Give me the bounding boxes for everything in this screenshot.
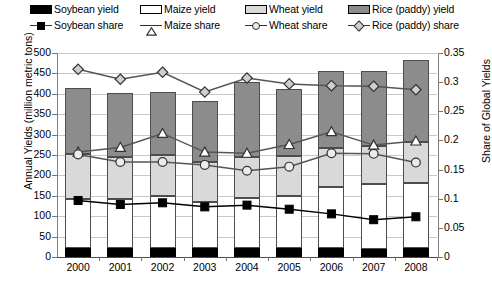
- chart-container: Soybean yield Maize yield Wheat yield Ri…: [0, 0, 492, 286]
- data-point-marker[interactable]: [326, 127, 336, 136]
- right-axis-tick-label: 0.05: [444, 222, 484, 232]
- legend-label: Soybean share: [54, 20, 123, 31]
- legend-item-maize-share[interactable]: Maize share: [140, 18, 220, 33]
- data-point-marker[interactable]: [411, 85, 421, 95]
- data-point-marker[interactable]: [412, 213, 420, 221]
- share-line-soybean-share[interactable]: [74, 196, 420, 223]
- data-point-marker[interactable]: [200, 161, 209, 170]
- legend-row-shares: Soybean share Maize share Wheat share: [0, 18, 492, 33]
- data-point-marker[interactable]: [158, 128, 168, 137]
- legend-label: Rice (paddy) yield: [372, 4, 454, 15]
- legend-item-soybean-yield[interactable]: Soybean yield: [30, 2, 119, 17]
- left-axis-tick-label: 150: [17, 190, 51, 200]
- share-lines-overlay: [57, 53, 437, 257]
- legend-row-yields: Soybean yield Maize yield Wheat yield Ri…: [0, 2, 492, 17]
- legend-label: Rice (paddy) share: [372, 20, 459, 31]
- data-point-marker[interactable]: [200, 87, 210, 97]
- left-axis-tick-label: 100: [17, 210, 51, 220]
- data-point-marker[interactable]: [327, 149, 336, 158]
- wheat-share-marker-icon: [245, 20, 267, 31]
- data-point-marker[interactable]: [201, 203, 209, 211]
- data-point-marker[interactable]: [157, 67, 167, 77]
- right-axis-tick: [438, 228, 443, 229]
- data-point-marker[interactable]: [368, 81, 378, 91]
- data-point-marker[interactable]: [411, 136, 421, 145]
- data-point-marker[interactable]: [159, 199, 167, 207]
- legend-item-rice-yield[interactable]: Rice (paddy) yield: [348, 2, 454, 17]
- rice-share-marker-icon: [348, 20, 370, 31]
- right-axis-tick-label: 0.1: [444, 193, 484, 203]
- data-point-marker[interactable]: [284, 79, 294, 89]
- right-axis-tick-label: 0.35: [444, 47, 484, 57]
- chart-legend: Soybean yield Maize yield Wheat yield Ri…: [0, 2, 492, 38]
- data-point-marker[interactable]: [411, 158, 420, 167]
- right-axis-tick-label: 0: [444, 251, 484, 261]
- data-point-marker[interactable]: [327, 210, 335, 218]
- data-point-marker[interactable]: [242, 73, 252, 83]
- share-line-rice-paddy-share[interactable]: [73, 64, 421, 97]
- left-axis-tick-label: 500: [17, 47, 51, 57]
- left-axis-tick-label: 450: [17, 67, 51, 77]
- left-axis-tick-label: 300: [17, 129, 51, 139]
- left-axis-tick-label: 250: [17, 149, 51, 159]
- data-point-marker[interactable]: [285, 205, 293, 213]
- left-axis-tick: [52, 257, 57, 258]
- right-axis-tick-label: 0.15: [444, 164, 484, 174]
- right-axis-tick: [438, 257, 443, 258]
- legend-label: Maize share: [164, 20, 220, 31]
- data-point-marker[interactable]: [370, 216, 378, 224]
- left-axis-tick-label: 350: [17, 108, 51, 118]
- data-point-marker[interactable]: [285, 162, 294, 171]
- data-point-marker[interactable]: [74, 150, 83, 159]
- data-point-marker[interactable]: [116, 201, 124, 209]
- maize-share-marker-icon: [140, 20, 162, 31]
- data-point-marker[interactable]: [369, 149, 378, 158]
- data-point-marker[interactable]: [74, 196, 82, 204]
- legend-label: Wheat share: [269, 20, 327, 31]
- data-point-marker[interactable]: [243, 201, 251, 209]
- legend-label: Maize yield: [164, 4, 215, 15]
- left-axis-tick-label: 400: [17, 88, 51, 98]
- legend-item-wheat-yield[interactable]: Wheat yield: [245, 2, 323, 17]
- left-axis-tick-label: 200: [17, 169, 51, 179]
- legend-item-rice-share[interactable]: Rice (paddy) share: [348, 18, 459, 33]
- right-axis-tick-label: 0.2: [444, 134, 484, 144]
- data-point-marker[interactable]: [73, 64, 83, 74]
- maize-yield-swatch-icon: [140, 5, 162, 14]
- right-axis-tick: [438, 53, 443, 54]
- x-axis-label: 2008: [388, 261, 444, 273]
- share-line-maize-share[interactable]: [73, 127, 421, 158]
- right-axis-tick-label: 0.25: [444, 105, 484, 115]
- legend-label: Wheat yield: [269, 4, 323, 15]
- soybean-yield-swatch-icon: [30, 5, 52, 14]
- legend-label: Soybean yield: [54, 4, 119, 15]
- left-axis-tick-label: 0: [17, 251, 51, 261]
- right-axis-tick: [438, 140, 443, 141]
- data-point-marker[interactable]: [243, 166, 252, 175]
- right-axis-tick: [438, 111, 443, 112]
- data-point-marker[interactable]: [116, 158, 125, 167]
- rice-yield-swatch-icon: [348, 5, 370, 14]
- legend-item-wheat-share[interactable]: Wheat share: [245, 18, 327, 33]
- data-point-marker[interactable]: [326, 80, 336, 90]
- legend-item-soybean-share[interactable]: Soybean share: [30, 18, 123, 33]
- right-axis-tick: [438, 199, 443, 200]
- left-axis-tick-label: 50: [17, 231, 51, 241]
- data-point-marker[interactable]: [158, 158, 167, 167]
- wheat-yield-swatch-icon: [245, 5, 267, 14]
- data-point-marker[interactable]: [115, 74, 125, 84]
- right-axis-tick-label: 0.3: [444, 76, 484, 86]
- right-axis-tick: [438, 170, 443, 171]
- right-axis-tick: [438, 82, 443, 83]
- legend-item-maize-yield[interactable]: Maize yield: [140, 2, 215, 17]
